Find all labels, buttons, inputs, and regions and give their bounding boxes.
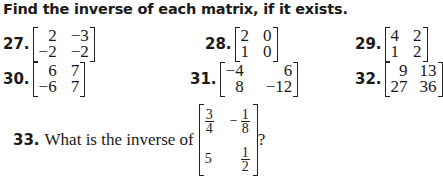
matrix-cell: 5 (205, 144, 214, 174)
matrix: 4 2 1 2 (385, 28, 428, 60)
matrix-cell: 8 (226, 79, 244, 95)
matrix: 9 13 27 36 (385, 63, 443, 95)
matrix-cell: −6 (39, 79, 57, 95)
fraction: 1 2 (241, 146, 250, 173)
matrix-cell: 2 (413, 44, 422, 60)
problem-27: 27. 2 −3 −2 −2 (3, 28, 95, 60)
problem-number: 33. (13, 131, 40, 149)
question-mark: ? (258, 130, 266, 150)
matrix-cell: 1 (391, 44, 400, 60)
problem-number: 28. (205, 35, 232, 53)
matrix-cell: 0 (263, 44, 272, 60)
problem-text: What is the inverse of (45, 130, 194, 150)
matrix-cell: 36 (420, 79, 437, 95)
fraction-matrix: 3 4 − 1 8 5 1 2 (199, 104, 258, 176)
matrix-cell: 1 2 (230, 144, 250, 174)
problem-30: 30. 6 7 −6 7 (3, 63, 85, 95)
matrix-cell: −2 (71, 44, 89, 60)
problem-29: 29. 4 2 1 2 (355, 28, 428, 60)
matrix-cell: 3 4 (205, 106, 214, 136)
matrix-cell: 7 (71, 79, 80, 95)
problem-31: 31. −4 6 8 −12 (190, 63, 298, 95)
matrix-cell: 27 (391, 79, 408, 95)
problem-number: 27. (3, 35, 30, 53)
matrix-cell: −2 (39, 44, 57, 60)
matrix: 6 7 −6 7 (33, 63, 86, 95)
problem-number: 31. (190, 70, 217, 88)
problem-number: 29. (355, 35, 382, 53)
problem-33: 33. What is the inverse of 3 4 − 1 8 5 1… (13, 104, 265, 176)
matrix: −4 6 8 −12 (220, 63, 299, 95)
matrix: 2 0 1 0 (235, 28, 278, 60)
problem-32: 32. 9 13 27 36 (355, 63, 443, 95)
matrix: 2 −3 −2 −2 (33, 28, 95, 60)
fraction: 1 8 (241, 108, 250, 135)
matrix-cell: −12 (266, 79, 293, 95)
matrix-cell: 1 (241, 44, 250, 60)
fraction: 3 4 (205, 108, 214, 135)
problem-number: 32. (355, 70, 382, 88)
instructions-heading: Find the inverse of each matrix, if it e… (3, 1, 348, 17)
problem-number: 30. (3, 70, 30, 88)
problem-28: 28. 2 0 1 0 (205, 28, 278, 60)
matrix-cell: − 1 8 (230, 106, 250, 136)
